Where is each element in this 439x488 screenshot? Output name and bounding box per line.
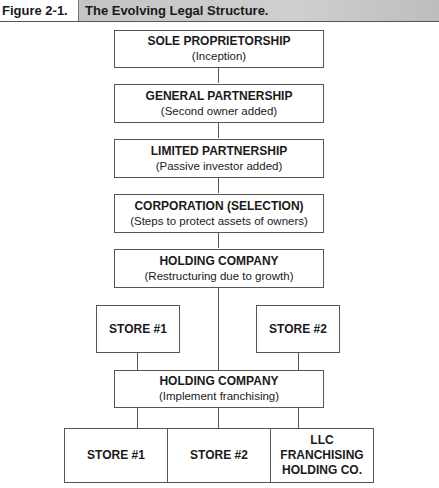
node-subtitle: (Second owner added) <box>161 104 277 119</box>
node-llc-franchising-holding: LLC FRANCHISING HOLDING CO. <box>270 428 374 483</box>
node-holding-company-franchising: HOLDING COMPANY (Implement franchising) <box>114 370 324 408</box>
edge-limited-to-corporation <box>218 177 219 193</box>
node-limited-partnership: LIMITED PARTNERSHIP (Passive investor ad… <box>114 139 324 178</box>
edge-sole-to-general <box>218 67 219 83</box>
node-store1-upper: STORE #1 <box>96 305 180 353</box>
node-holding-company-restructuring: HOLDING COMPANY (Restructuring due to gr… <box>114 249 324 288</box>
node-title: STORE #2 <box>269 322 327 337</box>
edge-general-to-limited <box>218 122 219 138</box>
node-title-line: FRANCHISING <box>280 448 363 463</box>
node-title: SOLE PROPRIETORSHIP <box>147 34 290 49</box>
edge-corporation-to-holding <box>218 232 219 248</box>
node-title: CORPORATION (SELECTION) <box>134 199 303 214</box>
node-subtitle: (Passive investor added) <box>156 159 283 174</box>
node-subtitle: (Steps to protect assets of owners) <box>130 214 308 229</box>
node-subtitle: (Inception) <box>192 49 246 64</box>
node-corporation: CORPORATION (SELECTION) (Steps to protec… <box>114 194 324 233</box>
edge-holding2-to-store1-lower <box>137 407 138 428</box>
edge-store1-upper-to-holding2 <box>137 352 138 370</box>
node-store2-upper: STORE #2 <box>256 305 340 353</box>
node-subtitle: (Implement franchising) <box>159 389 279 404</box>
node-title: STORE #2 <box>190 448 248 463</box>
edge-store2-upper-to-holding2 <box>298 352 299 370</box>
node-title-line: LLC <box>310 433 333 448</box>
node-title: STORE #1 <box>109 322 167 337</box>
node-title: GENERAL PARTNERSHIP <box>146 89 293 104</box>
edge-holding2-to-llc <box>298 407 299 428</box>
node-subtitle: (Restructuring due to growth) <box>145 269 294 284</box>
node-general-partnership: GENERAL PARTNERSHIP (Second owner added) <box>114 84 324 123</box>
figure-label: Figure 2-1. <box>0 0 79 21</box>
node-title: STORE #1 <box>87 448 145 463</box>
node-title: LIMITED PARTNERSHIP <box>151 144 287 159</box>
figure-header: Figure 2-1. The Evolving Legal Structure… <box>0 0 439 22</box>
edge-holding-to-holding2 <box>218 287 219 370</box>
node-store2-lower: STORE #2 <box>167 428 271 483</box>
node-store1-lower: STORE #1 <box>64 428 168 483</box>
edge-holding2-to-store2-lower <box>218 407 219 428</box>
node-title: HOLDING COMPANY <box>159 374 278 389</box>
figure-title: The Evolving Legal Structure. <box>78 0 439 21</box>
node-title: HOLDING COMPANY <box>159 254 278 269</box>
node-sole-proprietorship: SOLE PROPRIETORSHIP (Inception) <box>114 30 324 68</box>
node-title-line: HOLDING CO. <box>282 463 362 478</box>
